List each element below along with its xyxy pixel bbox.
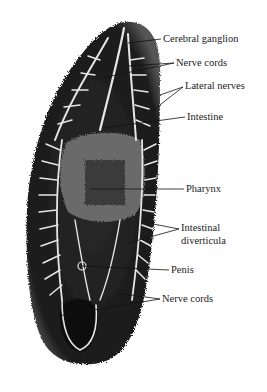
label-intestine: Intestine: [187, 111, 223, 123]
label-nerve-cords-bottom: Nerve cords: [162, 293, 213, 305]
label-pharynx: Pharynx: [186, 183, 221, 195]
label-intestinal-diverticula-line2: diverticula: [181, 235, 226, 247]
label-cerebral-ganglion: Cerebral ganglion: [163, 33, 239, 45]
label-nerve-cords-top: Nerve cords: [176, 57, 227, 69]
label-intestinal-diverticula-line1: Intestinal: [181, 222, 220, 234]
label-lateral-nerves: Lateral nerves: [185, 80, 245, 92]
label-penis: Penis: [171, 264, 194, 276]
planarian-body: [27, 22, 161, 365]
